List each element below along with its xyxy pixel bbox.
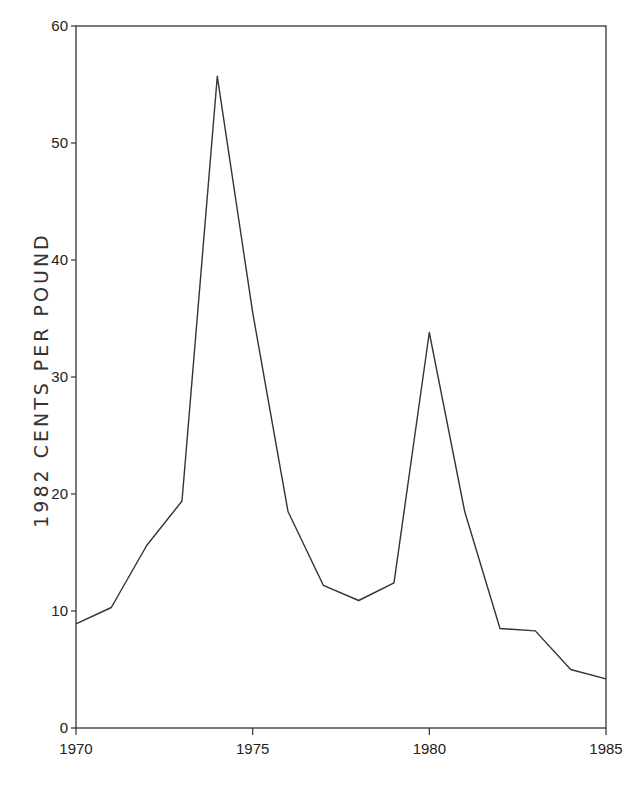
y-tick-label: 10 xyxy=(51,602,68,619)
x-tick-label: 1980 xyxy=(413,740,446,757)
y-tick-label: 20 xyxy=(51,485,68,502)
line-chart: 0102030405060 1970197519801985 1982 CENT… xyxy=(0,0,641,786)
x-tick-label: 1970 xyxy=(59,740,92,757)
y-tick-label: 0 xyxy=(60,719,68,736)
y-axis-label: 1982 CENTS PER POUND xyxy=(30,232,52,527)
y-tick-label: 60 xyxy=(51,17,68,34)
price-series-line xyxy=(76,76,606,679)
x-tick-label: 1975 xyxy=(236,740,269,757)
y-tick-label: 50 xyxy=(51,134,68,151)
y-tick-label: 40 xyxy=(51,251,68,268)
y-tick-label: 30 xyxy=(51,368,68,385)
x-axis-ticks: 1970197519801985 xyxy=(59,728,622,757)
plot-border xyxy=(76,26,606,728)
plot-frame xyxy=(76,26,606,728)
y-axis-ticks: 0102030405060 xyxy=(51,17,76,736)
x-tick-label: 1985 xyxy=(589,740,622,757)
